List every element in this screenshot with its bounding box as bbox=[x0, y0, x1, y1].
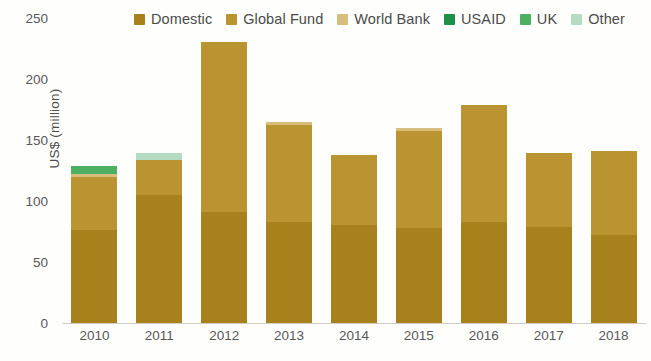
bar-segment-global-fund-2014[interactable] bbox=[331, 155, 377, 226]
bar-segment-global-fund-2011[interactable] bbox=[136, 160, 182, 195]
x-axis-tick-2013: 2013 bbox=[257, 328, 321, 343]
bar-segment-domestic-2016[interactable] bbox=[461, 222, 507, 323]
bar-segment-global-fund-2010[interactable] bbox=[71, 177, 117, 231]
x-axis-tick-2016: 2016 bbox=[452, 328, 516, 343]
y-axis-tick-100: 100 bbox=[4, 194, 48, 209]
bar-segment-domestic-2018[interactable] bbox=[591, 235, 637, 323]
y-axis-tick-200: 200 bbox=[4, 72, 48, 87]
y-axis-tick-50: 50 bbox=[4, 255, 48, 270]
bar-group-2012[interactable] bbox=[201, 42, 247, 323]
bar-segment-global-fund-2013[interactable] bbox=[266, 125, 312, 221]
x-axis-tick-2012: 2012 bbox=[192, 328, 256, 343]
y-axis-tick-150: 150 bbox=[4, 133, 48, 148]
x-axis-tick-2011: 2011 bbox=[127, 328, 191, 343]
bars-area bbox=[62, 18, 646, 323]
bar-segment-global-fund-2018[interactable] bbox=[591, 151, 637, 235]
bar-group-2017[interactable] bbox=[526, 153, 572, 323]
bar-group-2014[interactable] bbox=[331, 155, 377, 323]
bar-segment-domestic-2017[interactable] bbox=[526, 227, 572, 323]
bar-segment-domestic-2015[interactable] bbox=[396, 228, 442, 323]
y-axis-title: US$ (million) bbox=[47, 69, 62, 189]
bar-segment-global-fund-2012[interactable] bbox=[201, 42, 247, 212]
x-axis-tick-2018: 2018 bbox=[582, 328, 646, 343]
y-axis-tick-250: 250 bbox=[4, 11, 48, 26]
x-axis-tick-2017: 2017 bbox=[517, 328, 581, 343]
bar-segment-domestic-2010[interactable] bbox=[71, 230, 117, 323]
x-axis-tick-labels: 201020112012201320142015201620172018 bbox=[62, 328, 646, 350]
bar-group-2011[interactable] bbox=[136, 153, 182, 323]
bar-segment-global-fund-2016[interactable] bbox=[461, 105, 507, 222]
bar-group-2013[interactable] bbox=[266, 122, 312, 323]
x-axis-line bbox=[62, 323, 646, 324]
bar-group-2018[interactable] bbox=[591, 151, 637, 323]
bar-segment-domestic-2013[interactable] bbox=[266, 222, 312, 323]
x-axis-tick-2014: 2014 bbox=[322, 328, 386, 343]
y-axis-tick-0: 0 bbox=[4, 316, 48, 331]
bar-segment-uk-2010[interactable] bbox=[71, 166, 117, 175]
x-axis-tick-2015: 2015 bbox=[387, 328, 451, 343]
chart-container: DomesticGlobal FundWorld BankUSAIDUKOthe… bbox=[0, 0, 651, 361]
bar-segment-domestic-2014[interactable] bbox=[331, 225, 377, 323]
bar-segment-domestic-2011[interactable] bbox=[136, 195, 182, 323]
bar-group-2015[interactable] bbox=[396, 128, 442, 323]
x-axis-tick-2010: 2010 bbox=[62, 328, 126, 343]
bar-group-2016[interactable] bbox=[461, 105, 507, 323]
bar-segment-global-fund-2017[interactable] bbox=[526, 153, 572, 226]
bar-group-2010[interactable] bbox=[71, 166, 117, 323]
bar-segment-domestic-2012[interactable] bbox=[201, 212, 247, 323]
bar-segment-global-fund-2015[interactable] bbox=[396, 131, 442, 227]
